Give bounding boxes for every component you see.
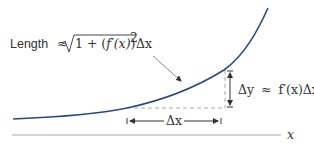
delta-y-rhs: f′(x)Δx [279,82,314,97]
delta-y-approx: ≈ [261,82,271,97]
length-leader-arrow [153,56,181,81]
delta-x-label: Δx [166,113,182,128]
sqrt-one-plus: 1 + ( [75,36,106,51]
delta-y-dimension [227,71,233,107]
delta-y-label: Δy ≈ f′(x)Δx [238,82,314,97]
delta-y-lhs: Δy [238,82,255,97]
length-delta-x: Δx [136,36,152,51]
x-axis-label: x [287,127,294,142]
arc-length-diagram: x Δx Δy ≈ f′(x)Δx Length ≈ 1 + (f′(x)) 2… [0,0,314,146]
length-formula: Length ≈ 1 + (f′(x)) 2 Δx [10,30,152,52]
sqrt-contents: 1 + (f′(x)) [75,36,135,51]
length-word: Length [10,37,48,51]
f-prime-term: f′(x) [105,36,130,51]
